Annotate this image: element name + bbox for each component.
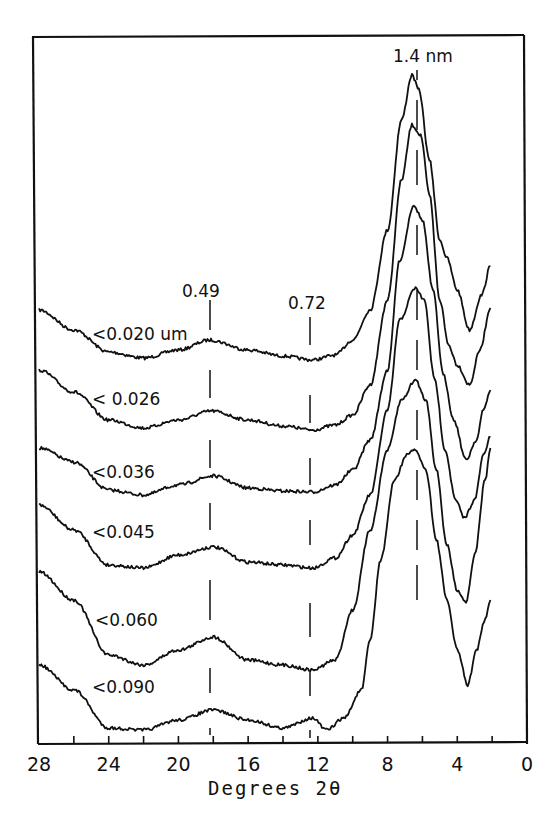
curve-2 [39,124,490,432]
curve-1 [39,74,490,362]
x-tick-label: 0 [521,753,533,775]
series-labels: <0.020 um< 0.026<0.036<0.045<0.060<0.090 [92,324,188,697]
series-label-2: < 0.026 [92,389,160,409]
peak-label-0-49: 0.49 [182,281,220,301]
series-label-3: <0.036 [92,462,155,482]
series-label-5: <0.060 [95,610,158,630]
peak-label-1-4nm: 1.4 nm [393,46,453,66]
x-tick-label: 4 [451,753,463,775]
x-axis-tick-labels: 2824201612840 [27,753,533,775]
xrd-chart: 2824201612840 <0.020 um< 0.026<0.036<0.0… [0,0,560,831]
x-tick-label: 16 [236,753,260,775]
series-label-4: <0.045 [92,522,155,542]
peak-label-0-72: 0.72 [288,293,326,313]
x-axis-title: Degrees 2θ [208,777,342,799]
reference-dashed-lines [210,70,417,738]
x-tick-label: 24 [97,753,121,775]
series-label-6: <0.090 [92,677,155,697]
x-tick-label: 12 [306,753,330,775]
x-tick-label: 20 [166,753,190,775]
series-label-1: <0.020 um [92,324,188,344]
x-tick-label: 8 [382,753,394,775]
x-tick-label: 28 [27,753,51,775]
